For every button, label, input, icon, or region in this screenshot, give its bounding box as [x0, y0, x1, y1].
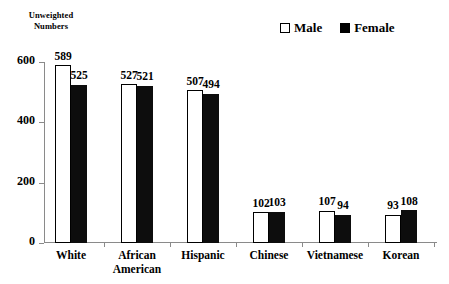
bar-group: 589525: [55, 65, 87, 243]
bar-group: 527521: [121, 84, 153, 243]
bar-value-label: 107: [318, 196, 335, 208]
y-axis-title-line-1: Unweighted: [8, 10, 94, 21]
bar-value-label: 103: [268, 197, 285, 209]
bar-female: 94: [335, 215, 351, 243]
y-axis-tick: 400: [39, 122, 44, 123]
bar-value-label: 494: [202, 79, 219, 91]
bar-male: 107: [319, 211, 335, 243]
legend-label-male: Male: [294, 21, 322, 34]
bar-rect: [121, 84, 137, 243]
bar-rect: [71, 85, 87, 243]
y-axis-title-line-2: Numbers: [8, 21, 94, 32]
bar-group: 102103: [253, 212, 285, 243]
bar-value-label: 102: [252, 198, 269, 210]
bar-rect: [385, 215, 401, 243]
bar-rect: [319, 211, 335, 243]
hollow-square-icon: [280, 23, 290, 33]
y-axis-title: Unweighted Numbers: [8, 10, 94, 33]
bar-value-label: 94: [337, 200, 349, 212]
bar-value-label: 589: [54, 51, 71, 63]
y-axis-line: [44, 62, 45, 243]
x-axis-tick: [236, 243, 237, 247]
y-axis-tick-label: 0: [29, 235, 35, 247]
bar-female: 494: [203, 94, 219, 243]
bar-rect: [253, 212, 269, 243]
bar-group: 507494: [187, 90, 219, 243]
chart-legend: Male Female: [280, 21, 395, 34]
bar-rect: [203, 94, 219, 243]
y-axis-tick-label: 600: [17, 54, 35, 66]
plot-area: 0200400600 58952552752150749410210310794…: [44, 62, 437, 243]
x-axis-tick: [434, 243, 435, 247]
bar-rect: [187, 90, 203, 243]
bar-value-label: 507: [186, 76, 203, 88]
bar-male: 589: [55, 65, 71, 243]
legend-item-female: Female: [340, 21, 394, 34]
x-axis-label-line: Korean: [356, 249, 446, 263]
bar-rect: [55, 65, 71, 243]
bar-chart: Unweighted Numbers Male Female 020040060…: [0, 0, 449, 284]
bar-value-label: 93: [387, 200, 399, 212]
y-axis-tick: 0: [39, 243, 44, 244]
bar-rect: [137, 86, 153, 243]
x-axis-tick: [170, 243, 171, 247]
bar-female: 525: [71, 85, 87, 243]
bar-rect: [401, 210, 417, 243]
x-axis-label-line: American: [92, 263, 182, 277]
y-axis-tick-label: 200: [17, 175, 35, 187]
bar-male: 507: [187, 90, 203, 243]
y-axis-tick-label: 400: [17, 114, 35, 126]
x-axis-label: Korean: [356, 249, 446, 263]
legend-item-male: Male: [280, 21, 322, 34]
bar-female: 103: [269, 212, 285, 243]
x-axis-tick: [104, 243, 105, 247]
y-axis-tick: 200: [39, 183, 44, 184]
bar-rect: [335, 215, 351, 243]
bar-value-label: 527: [120, 70, 137, 82]
bar-value-label: 525: [70, 70, 87, 82]
bar-male: 102: [253, 212, 269, 243]
bar-group: 10794: [319, 211, 351, 243]
x-axis-tick: [302, 243, 303, 247]
filled-square-icon: [340, 23, 350, 33]
bar-female: 521: [137, 86, 153, 243]
bar-male: 93: [385, 215, 401, 243]
legend-label-female: Female: [354, 21, 394, 34]
bar-group: 93108: [385, 210, 417, 243]
bar-female: 108: [401, 210, 417, 243]
bar-value-label: 521: [136, 71, 153, 83]
bar-rect: [269, 212, 285, 243]
bar-male: 527: [121, 84, 137, 243]
x-axis-line: [44, 242, 437, 243]
bar-value-label: 108: [400, 196, 417, 208]
x-axis-tick: [368, 243, 369, 247]
y-axis-tick: 600: [39, 62, 44, 63]
